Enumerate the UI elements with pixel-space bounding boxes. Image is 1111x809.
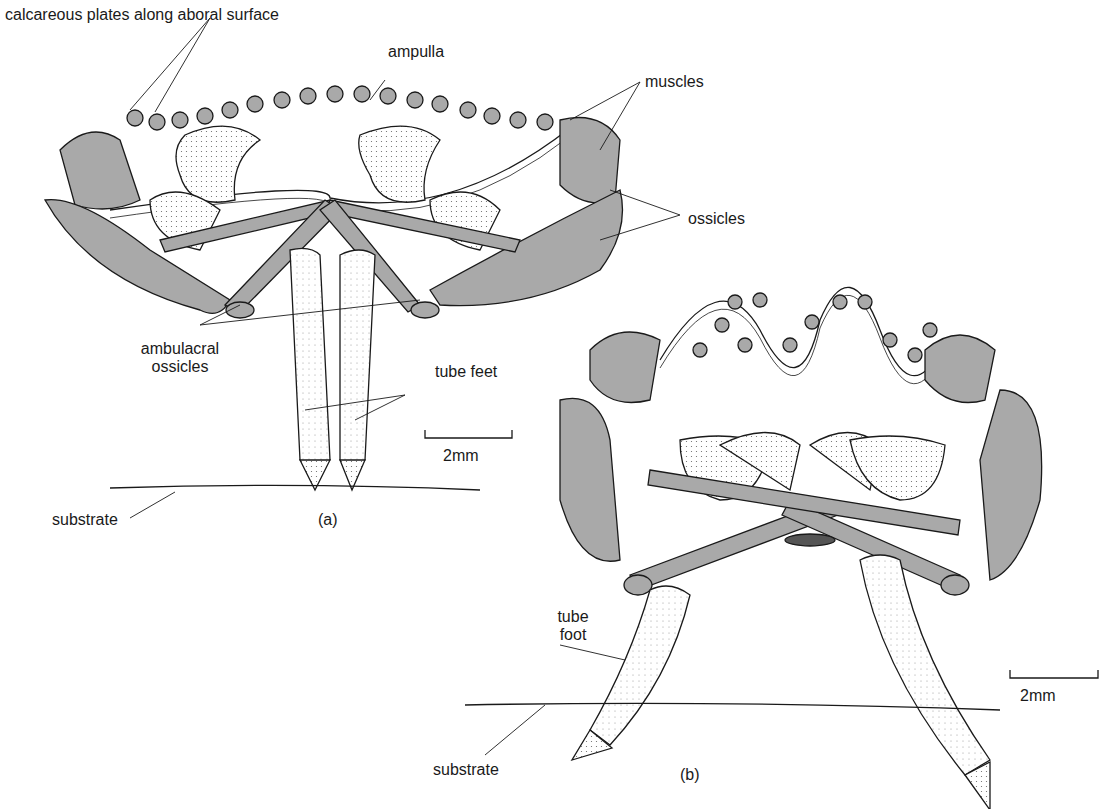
diagram-canvas <box>0 0 1111 809</box>
label-substrate-a: substrate <box>52 511 118 529</box>
label-calcareous-plates: calcareous plates along aboral surface <box>5 6 279 24</box>
label-substrate-b: substrate <box>433 761 499 779</box>
label-ambulacral-line1: ambulacral <box>130 340 230 358</box>
label-ossicles: ossicles <box>688 210 745 228</box>
label-ambulacral-line2: ossicles <box>130 358 230 376</box>
caption-b: (b) <box>680 766 700 784</box>
scale-bar-b-label: 2mm <box>1020 687 1056 705</box>
label-muscles: muscles <box>645 73 704 91</box>
caption-a: (a) <box>318 511 338 529</box>
label-ampulla: ampulla <box>388 43 444 61</box>
calcareous-plates <box>127 86 553 130</box>
panel-b-drawing <box>465 287 1098 809</box>
label-tube-foot: tube foot <box>548 608 598 644</box>
scale-bar-a-label: 2mm <box>443 447 479 465</box>
label-tube-feet: tube feet <box>435 363 497 381</box>
label-ambulacral-ossicles: ambulacral ossicles <box>130 340 230 376</box>
label-tube-foot-line2: foot <box>548 626 598 644</box>
calcareous-plates-b <box>693 293 937 362</box>
label-tube-foot-line1: tube <box>548 608 598 626</box>
